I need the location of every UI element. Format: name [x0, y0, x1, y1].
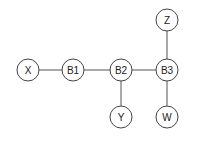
node-w: W [156, 106, 178, 128]
graph-diagram: X B1 B2 B3 Z Y W [0, 0, 199, 141]
node-label: B1 [67, 65, 80, 76]
nodes: X B1 B2 B3 Z Y W [17, 9, 178, 128]
node-b3: B3 [156, 59, 178, 81]
node-y: Y [110, 106, 132, 128]
node-label: B2 [115, 65, 128, 76]
node-label: B3 [161, 65, 174, 76]
node-label: W [162, 112, 172, 123]
node-label: Y [118, 112, 125, 123]
node-b1: B1 [62, 59, 84, 81]
node-b2: B2 [110, 59, 132, 81]
node-label: X [25, 65, 32, 76]
node-label: Z [164, 15, 170, 26]
edges [28, 20, 167, 117]
node-z: Z [156, 9, 178, 31]
node-x: X [17, 59, 39, 81]
